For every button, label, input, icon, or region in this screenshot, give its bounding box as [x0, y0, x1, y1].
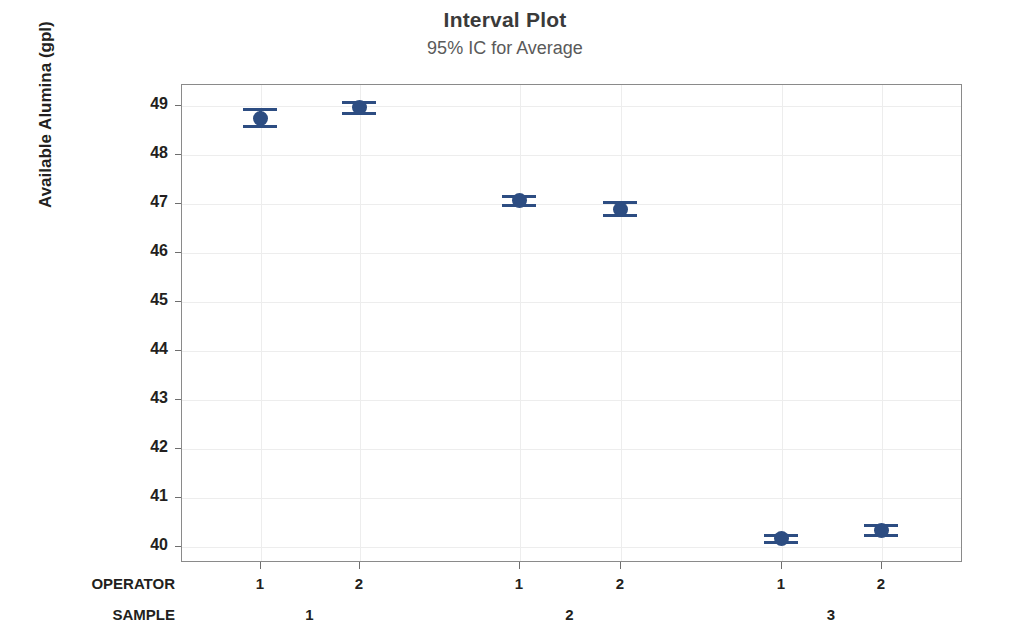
- operator-tick-label: 1: [499, 575, 539, 592]
- gridline-horizontal: [182, 155, 961, 156]
- gridline-horizontal: [182, 302, 961, 303]
- y-axis-label: 43: [128, 389, 168, 407]
- operator-tick-label: 2: [861, 575, 901, 592]
- gridline-horizontal: [182, 400, 961, 401]
- y-axis-label: 40: [128, 536, 168, 554]
- plot-area: [181, 84, 962, 562]
- y-axis-label: 41: [128, 487, 168, 505]
- y-axis-label: 42: [128, 438, 168, 456]
- gridline-horizontal: [182, 351, 961, 352]
- x-axis-tick: [260, 562, 261, 569]
- operator-tick-label: 1: [240, 575, 280, 592]
- gridline-horizontal: [182, 204, 961, 205]
- x-axis-tick: [519, 562, 520, 569]
- sample-tick-label: 1: [280, 606, 340, 623]
- y-axis-label: 49: [128, 95, 168, 113]
- page-title: Interval Plot: [0, 8, 1010, 32]
- y-axis-label: 46: [128, 242, 168, 260]
- data-point-marker: [774, 531, 789, 546]
- x-axis-tick: [781, 562, 782, 569]
- group-row-label-sample: SAMPLE: [55, 606, 175, 623]
- gridline-horizontal: [182, 498, 961, 499]
- x-axis-tick: [881, 562, 882, 569]
- gridline-vertical: [261, 85, 262, 561]
- data-point-marker: [352, 100, 367, 115]
- gridline-vertical: [621, 85, 622, 561]
- x-axis-tick: [620, 562, 621, 569]
- chart-subtitle: 95% IC for Average: [0, 38, 1010, 59]
- gridline-horizontal: [182, 253, 961, 254]
- group-row-label-operator: OPERATOR: [55, 575, 175, 592]
- sample-tick-label: 3: [801, 606, 861, 623]
- gridline-vertical: [782, 85, 783, 561]
- x-axis-tick: [359, 562, 360, 569]
- sample-tick-label: 2: [540, 606, 600, 623]
- operator-tick-label: 2: [600, 575, 640, 592]
- y-axis-title: Available Alumina (gpl): [36, 0, 56, 208]
- y-axis-label: 44: [128, 340, 168, 358]
- data-point-marker: [512, 193, 527, 208]
- data-point-marker: [874, 523, 889, 538]
- y-axis-label: 47: [128, 193, 168, 211]
- y-axis-label: 45: [128, 291, 168, 309]
- gridline-vertical: [360, 85, 361, 561]
- operator-tick-label: 2: [339, 575, 379, 592]
- gridline-horizontal: [182, 449, 961, 450]
- gridline-vertical: [520, 85, 521, 561]
- data-point-marker: [613, 202, 628, 217]
- gridline-horizontal: [182, 106, 961, 107]
- y-axis-label: 48: [128, 144, 168, 162]
- data-point-marker: [253, 111, 268, 126]
- operator-tick-label: 1: [761, 575, 801, 592]
- gridline-vertical: [882, 85, 883, 561]
- gridline-horizontal: [182, 547, 961, 548]
